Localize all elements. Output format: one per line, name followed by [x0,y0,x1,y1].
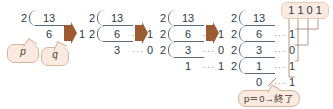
end-condition-text: p＝0→終了 [244,93,294,104]
end-condition-label: p＝0→終了 [238,90,300,107]
